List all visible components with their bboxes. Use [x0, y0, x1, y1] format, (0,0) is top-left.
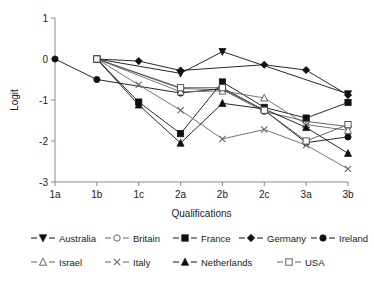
x-axis-tick-label: 2a: [175, 189, 187, 200]
legend-item-label: Australia: [56, 233, 96, 244]
legend-item-israel[interactable]: Israel: [30, 256, 104, 268]
legend-key-triangle-up-filled: [172, 256, 198, 268]
data-point-marker-x-cross: [177, 107, 183, 113]
legend-item-ireland[interactable]: Ireland: [310, 232, 360, 244]
legend-key-triangle-up-open: [30, 256, 56, 268]
legend-key-square-open: [276, 256, 302, 268]
legend-key-circle-filled: [310, 232, 336, 244]
data-point-marker-diamond-filled: [135, 57, 142, 64]
y-axis-tick-label: 0: [42, 54, 48, 65]
data-point-marker-circle-filled: [345, 134, 351, 140]
chart-figure: 10-1-2-31a1b1c2a2b2c3a3b QualificationsL…: [0, 0, 374, 290]
legend-item-france[interactable]: France: [172, 232, 238, 244]
data-point-marker-triangle-down-filled: [39, 235, 46, 242]
y-axis-title: Logit: [9, 89, 20, 111]
legend-row: AustraliaBritainFranceGermanyIreland: [30, 226, 360, 250]
data-point-marker-circle-filled: [320, 235, 326, 241]
data-point-marker-square-open: [94, 56, 100, 62]
legend-item-label: France: [198, 233, 231, 244]
data-point-marker-circle-filled: [52, 56, 58, 62]
data-point-marker-square-filled: [345, 99, 351, 105]
data-point-marker-square-open: [286, 259, 292, 265]
data-point-marker-triangle-up-filled: [345, 150, 352, 157]
data-point-marker-square-filled: [177, 131, 183, 137]
data-point-marker-square-open: [177, 85, 183, 91]
data-point-marker-square-open: [261, 107, 267, 113]
legend-key-circle-open: [104, 232, 130, 244]
data-point-marker-x-cross: [219, 136, 225, 142]
data-point-marker-x-cross: [114, 259, 120, 265]
data-point-marker-square-open: [345, 122, 351, 128]
data-point-marker-diamond-filled: [303, 66, 310, 73]
data-point-marker-square-open: [219, 85, 225, 91]
legend-item-netherlands[interactable]: Netherlands: [172, 256, 276, 268]
data-point-marker-triangle-up-filled: [181, 258, 188, 265]
chart-axes: 10-1-2-31a1b1c2a2b2c3a3b: [39, 13, 354, 201]
data-point-marker-square-filled: [182, 235, 188, 241]
data-point-marker-circle-open: [114, 235, 120, 241]
legend-key-diamond-filled: [238, 232, 264, 244]
data-point-marker-diamond-filled: [247, 234, 254, 241]
y-axis-tick-label: -1: [39, 95, 48, 106]
data-point-marker-triangle-down-filled: [219, 49, 226, 56]
x-axis-title: Qualifications: [171, 208, 231, 219]
chart-series-layer: [52, 49, 352, 172]
legend-item-australia[interactable]: Australia: [30, 232, 104, 244]
data-point-marker-triangle-up-filled: [219, 100, 226, 107]
y-axis-tick-label: -2: [39, 136, 48, 147]
chart-axis-labels: QualificationsLogit: [9, 89, 232, 219]
legend-item-label: USA: [302, 257, 325, 268]
legend-key-square-filled: [172, 232, 198, 244]
data-point-marker-circle-filled: [94, 76, 100, 82]
legend-item-label: Netherlands: [198, 257, 252, 268]
data-point-marker-x-cross: [136, 82, 142, 88]
legend-row: IsraelItalyNetherlandsUSA: [30, 250, 360, 274]
legend-item-italy[interactable]: Italy: [104, 256, 172, 268]
y-axis-tick-label: -3: [39, 177, 48, 188]
line-chart-plot: 10-1-2-31a1b1c2a2b2c3a3b QualificationsL…: [0, 0, 374, 226]
legend-item-label: Germany: [264, 233, 306, 244]
series-line: [97, 59, 348, 169]
legend-item-label: Britain: [130, 233, 160, 244]
legend-item-label: Italy: [130, 257, 150, 268]
data-point-marker-triangle-up-open: [39, 258, 46, 265]
legend-item-germany[interactable]: Germany: [238, 232, 310, 244]
x-axis-tick-label: 3a: [301, 189, 313, 200]
x-axis-tick-label: 2c: [259, 189, 270, 200]
legend-item-britain[interactable]: Britain: [104, 232, 172, 244]
series-line: [97, 59, 348, 134]
data-point-marker-diamond-filled: [261, 61, 268, 68]
series-netherlands: [93, 55, 351, 156]
legend-item-label: Israel: [56, 257, 82, 268]
legend-key-triangle-down-filled: [30, 232, 56, 244]
data-point-marker-square-open: [303, 138, 309, 144]
series-line: [97, 59, 348, 130]
data-point-marker-x-cross: [261, 126, 267, 132]
chart-legend: AustraliaBritainFranceGermanyIrelandIsra…: [30, 226, 360, 274]
x-axis-tick-label: 1a: [49, 189, 61, 200]
x-axis-tick-label: 1b: [91, 189, 103, 200]
legend-item-label: Ireland: [336, 233, 368, 244]
data-point-marker-x-cross: [345, 166, 351, 172]
x-axis-tick-label: 2b: [217, 189, 229, 200]
legend-item-usa[interactable]: USA: [276, 256, 326, 268]
y-axis-tick-label: 1: [42, 13, 48, 24]
x-axis-tick-label: 3b: [342, 189, 354, 200]
legend-key-x-cross: [104, 256, 130, 268]
x-axis-tick-label: 1c: [133, 189, 144, 200]
